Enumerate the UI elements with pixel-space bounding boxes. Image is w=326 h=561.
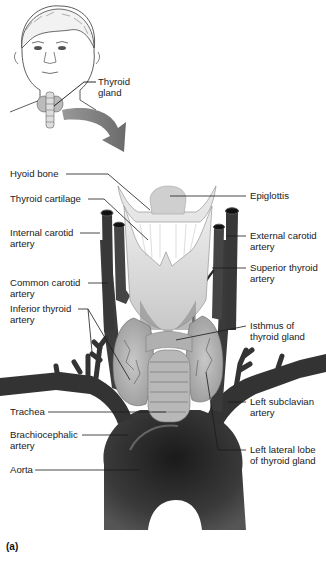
label-inferior-thyroid-artery: Inferior thyroid artery [10,303,71,325]
label-left-subclavian-artery: Left subclavian artery [250,396,314,418]
trachea [148,350,190,422]
label-common-carotid-artery: Common carotid artery [10,277,80,299]
label-isthmus-of-thyroid-gland: Isthmus of thyroid gland [250,320,305,342]
leader-hyoid-bone [66,174,150,210]
label-brachiocephalic-artery: Brachiocephalic artery [10,429,78,451]
label-epiglottis: Epiglottis [250,190,289,201]
left-lateral-lobe [186,316,223,402]
thyroid-cartilage-shape [124,206,212,330]
label-thyroid-cartilage: Thyroid cartilage [10,193,81,204]
label-thyroid-gland-inset: Thyroid gland [98,76,130,98]
right-eye [58,46,66,50]
left-eye [34,46,42,50]
panel-label: (a) [6,541,18,552]
magnify-arrow [62,108,126,152]
label-trachea: Trachea [10,406,45,417]
isthmus [146,332,192,353]
label-hyoid-bone: Hyoid bone [10,168,59,179]
epiglottis-shape [150,186,186,214]
label-external-carotid-artery: External carotid artery [250,230,317,252]
nose [44,52,56,64]
label-left-lateral-lobe: Left lateral lobe of thyroid gland [250,444,316,466]
inset-thyroid [37,92,63,128]
mouth [42,72,58,74]
leader-inferior-thyroid-artery-1 [78,309,92,352]
larynx [118,186,216,334]
label-internal-carotid-artery: Internal carotid artery [10,227,73,249]
label-aorta: Aorta [10,464,33,475]
inset-thyroid-leader [54,82,84,106]
label-superior-thyroid-artery: Superior thyroid artery [250,262,318,284]
